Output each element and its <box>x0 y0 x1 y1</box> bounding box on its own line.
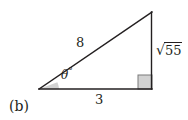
triangle-side-hypotenuse <box>39 12 152 89</box>
hypotenuse-length-label: 8 <box>76 36 84 49</box>
angle-sector-fill <box>39 82 59 89</box>
part-label: (b) <box>9 99 29 113</box>
sqrt-radicand-value: 55 <box>164 42 183 57</box>
figure-container: 8 3 √55 θ° (b) <box>0 0 188 120</box>
angle-theta-label: θ° <box>61 67 73 81</box>
vertical-length-label: √55 <box>156 42 182 57</box>
sqrt-expression: √55 <box>156 42 182 57</box>
base-length-label: 3 <box>95 93 103 106</box>
right-angle-marker <box>138 75 152 89</box>
degree-symbol: ° <box>68 66 73 76</box>
